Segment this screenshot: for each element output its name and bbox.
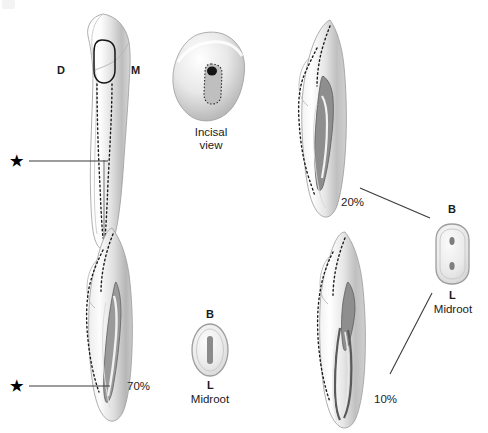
panel-proximal-view [88, 14, 131, 250]
xsection-double-label-lingual: L [449, 289, 456, 301]
panel-tooth-20 [299, 20, 347, 217]
percent-label-70: 70% [127, 380, 150, 392]
xsection-double-caption: Midroot [428, 303, 478, 315]
xsection-double-label-buccal: B [448, 203, 456, 215]
xsection-single-label-lingual: L [207, 379, 214, 391]
label-mesial: M [131, 64, 140, 76]
leader-line-20-to-xsection [360, 188, 430, 218]
cross-section-midroot-single [192, 324, 228, 376]
panel-incisal-view [173, 32, 245, 121]
marker-asterisk-bottom: ★ [10, 378, 23, 393]
xsection-outline-double [436, 224, 469, 284]
panel-tooth-10 [318, 232, 366, 428]
percent-label-20: 20% [341, 196, 364, 208]
dental-anatomy-figure [0, 0, 488, 433]
marker-asterisk-top: ★ [10, 153, 23, 168]
xsection-single-caption: Midroot [185, 393, 235, 405]
cross-section-midroot-double [436, 224, 469, 284]
canal-oval [207, 336, 213, 364]
canal-lingual [449, 262, 454, 270]
leader-line-10-to-xsection [390, 293, 432, 374]
canal-buccal [449, 237, 454, 245]
label-distal: D [57, 64, 65, 76]
caption-incisal-line1: Incisal [187, 126, 235, 138]
xsection-single-label-buccal: B [206, 308, 214, 320]
percent-label-10: 10% [374, 393, 397, 405]
canal-orifice-opening [207, 66, 217, 75]
panel-tooth-70 [87, 228, 133, 421]
caption-incisal-line2: view [187, 139, 235, 151]
